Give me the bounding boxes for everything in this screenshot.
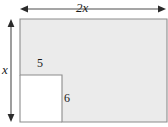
shaded-region-path xyxy=(20,19,167,122)
figure-canvas xyxy=(0,0,168,127)
notch-side-label: 6 xyxy=(64,92,70,104)
geometry-figure: 2x x 5 6 xyxy=(0,0,168,127)
width-label: 2x xyxy=(76,1,88,14)
height-dimension-arrow xyxy=(8,19,15,122)
height-label: x xyxy=(2,63,8,76)
width-arrow-head-right xyxy=(158,6,166,13)
height-arrow-head-bottom xyxy=(8,114,15,122)
width-dimension-arrow xyxy=(20,6,166,13)
height-arrow-head-top xyxy=(8,19,15,27)
width-arrow-head-left xyxy=(20,6,28,13)
notch-outline-path xyxy=(20,75,62,122)
notch-top-label: 5 xyxy=(37,57,43,69)
